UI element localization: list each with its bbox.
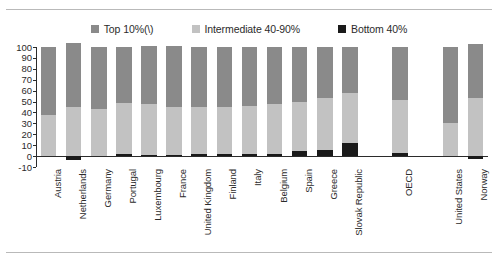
legend-label-top-10: Top 10%(\) [104, 24, 154, 35]
bar-segment-bottom-40 [141, 155, 157, 156]
y-tick-label: 0 [27, 152, 32, 162]
x-tick-label: Spain [304, 169, 314, 193]
y-tick-label: 30 [21, 119, 32, 129]
legend-swatch-bottom-40 [338, 25, 346, 33]
x-tick-label: Finland [228, 169, 238, 199]
bar-segment-bottom-40 [166, 155, 182, 156]
bar-group[interactable] [191, 47, 207, 167]
bar-segment-top-10 [66, 43, 82, 107]
y-tick-label: 90 [21, 53, 32, 63]
bar-segment-top-10 [392, 47, 408, 100]
bar-segment-top-10 [141, 46, 157, 104]
x-tick-label: Italy [253, 169, 263, 186]
bar-segment-intermediate [242, 106, 258, 154]
legend-label-intermediate: Intermediate 40-90% [205, 24, 301, 35]
bar-segment-bottom-40 [217, 154, 233, 156]
plot-area [36, 47, 488, 167]
bar-group[interactable] [317, 47, 333, 167]
bar-group[interactable] [66, 47, 82, 167]
bar-segment-intermediate [468, 98, 484, 156]
y-tick-label: 10 [21, 141, 32, 151]
y-axis-labels: 1009080706050403020100-10 [0, 47, 32, 167]
bar-segment-top-10 [91, 47, 107, 109]
bar-segment-intermediate [41, 115, 57, 156]
bar-segment-intermediate [116, 103, 132, 154]
bar-segment-bottom-40 [292, 151, 308, 156]
x-tick-label: Belgium [279, 169, 289, 203]
bar-segment-top-10 [267, 47, 283, 104]
bar-segment-top-10 [342, 47, 358, 93]
y-tick-mark [33, 156, 36, 157]
x-axis-labels: AustriaNetherlandsGermanyPortugalLuxembo… [36, 169, 488, 249]
y-tick-label: 100 [16, 43, 32, 53]
x-tick-label: United Kingdom [203, 169, 213, 235]
bar-segment-intermediate [292, 102, 308, 151]
x-tick-label: Luxembourg [153, 169, 163, 221]
bar-group[interactable] [141, 47, 157, 167]
bar-group[interactable] [91, 47, 107, 167]
x-tick-label: Austria [53, 169, 63, 198]
bar-group[interactable] [217, 47, 233, 167]
y-tick-mark [33, 112, 36, 113]
bar-group[interactable] [443, 47, 459, 167]
bar-segment-bottom-40 [242, 154, 258, 156]
x-tick-label: Netherlands [78, 169, 88, 219]
x-tick-label: Portugal [128, 169, 138, 204]
y-tick-label: 20 [21, 130, 32, 140]
bar-group[interactable] [267, 47, 283, 167]
bar-segment-intermediate [342, 93, 358, 143]
bar-segment-top-10 [116, 47, 132, 103]
x-tick-label: Slovak Republic [354, 169, 364, 236]
bar-group[interactable] [166, 47, 182, 167]
bar-segment-top-10 [443, 47, 459, 123]
y-tick-mark [33, 167, 36, 168]
x-tick-label: Greece [329, 169, 339, 200]
bar-segment-top-10 [468, 44, 484, 99]
chart-container: Top 10%(\) Intermediate 40-90% Bottom 40… [0, 0, 498, 267]
legend-item-intermediate: Intermediate 40-90% [192, 24, 301, 35]
y-tick-mark [33, 145, 36, 146]
y-tick-mark [33, 134, 36, 135]
bar-segment-top-10 [242, 47, 258, 106]
bar-segment-intermediate [443, 123, 459, 156]
legend-swatch-intermediate [192, 25, 200, 33]
bars-layer [36, 47, 488, 167]
y-tick-mark [33, 123, 36, 124]
bar-segment-intermediate [392, 100, 408, 152]
bar-group[interactable] [116, 47, 132, 167]
legend-item-top-10: Top 10%(\) [91, 24, 154, 35]
bar-group[interactable] [392, 47, 408, 167]
y-tick-label: 50 [21, 97, 32, 107]
bar-segment-bottom-40 [191, 154, 207, 156]
bar-segment-bottom-40 [267, 154, 283, 156]
x-tick-label: United States [454, 169, 464, 225]
bar-group[interactable] [41, 47, 57, 167]
top-divider [6, 9, 492, 10]
bar-segment-top-10 [217, 47, 233, 107]
bar-group[interactable] [468, 47, 484, 167]
y-tick-mark [33, 58, 36, 59]
bar-segment-top-10 [317, 47, 333, 98]
x-tick-label: Germany [103, 169, 113, 207]
x-tick-label: OECD [404, 169, 414, 196]
bar-segment-top-10 [292, 47, 308, 102]
bar-group[interactable] [242, 47, 258, 167]
bar-segment-intermediate [66, 107, 82, 156]
bar-segment-intermediate [166, 107, 182, 155]
bar-segment-bottom-40 [116, 154, 132, 156]
y-tick-mark [33, 102, 36, 103]
legend-label-bottom-40: Bottom 40% [351, 24, 407, 35]
y-tick-mark [33, 69, 36, 70]
y-tick-label: 60 [21, 86, 32, 96]
bar-group[interactable] [342, 47, 358, 167]
bar-segment-intermediate [191, 107, 207, 154]
y-tick-label: -10 [18, 163, 32, 173]
y-tick-label: 80 [21, 64, 32, 74]
bar-segment-intermediate [91, 109, 107, 156]
y-tick-label: 70 [21, 75, 32, 85]
y-tick-mark [33, 91, 36, 92]
chart-legend: Top 10%(\) Intermediate 40-90% Bottom 40… [0, 21, 498, 37]
bar-segment-intermediate [141, 104, 157, 155]
bar-group[interactable] [292, 47, 308, 167]
bar-segment-bottom-40 [392, 153, 408, 156]
